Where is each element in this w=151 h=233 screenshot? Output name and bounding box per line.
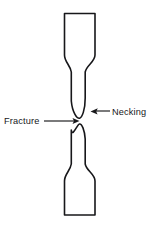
tensile-specimen-diagram: Fracture Necking <box>0 0 151 233</box>
fracture-label: Fracture <box>4 116 39 126</box>
necking-label: Necking <box>112 107 146 117</box>
figure-container: Fracture Necking <box>0 0 151 233</box>
upper-specimen-half <box>65 14 96 119</box>
lower-specimen-half <box>65 124 96 215</box>
